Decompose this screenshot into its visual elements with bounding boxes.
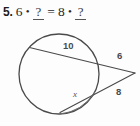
problem-number: 5.	[3, 5, 13, 19]
tangent-line	[60, 73, 135, 113]
multiplication-dot-right: •	[68, 5, 72, 17]
diagram-svg	[0, 20, 140, 126]
geometry-diagram: 10 6 8 x	[0, 20, 140, 126]
answer-blank-right[interactable]: ?	[75, 5, 86, 20]
answer-blank-left[interactable]: ?	[33, 5, 44, 20]
label-secant-external: 6	[117, 51, 122, 61]
exercise-figure-panel: 5. 6 • ? = 8 • ? 10 6 8 x	[0, 0, 140, 126]
right-operand: 8	[58, 4, 65, 19]
label-tangent-external: 8	[116, 87, 121, 97]
multiplication-dot-left: •	[26, 5, 30, 17]
left-operand: 6	[16, 4, 23, 19]
label-secant-chord: 10	[63, 41, 74, 51]
equals-sign: =	[47, 4, 55, 19]
problem-statement: 5. 6 • ? = 8 • ?	[3, 2, 139, 21]
label-unknown-segment: x	[73, 89, 77, 99]
